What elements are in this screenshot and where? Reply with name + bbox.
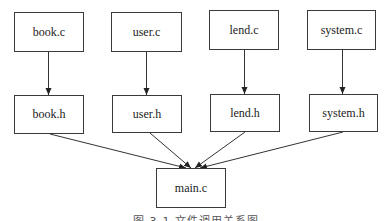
node-lend-h: lend.h	[210, 94, 280, 132]
figure-caption: 图 3-1 文件调用关系图	[0, 212, 392, 221]
node-system-c: system.c	[307, 10, 376, 50]
edge-book-h-to-main-c	[50, 134, 186, 168]
edge-user-h-to-main-c	[150, 133, 191, 168]
node-user-h: user.h	[112, 95, 182, 133]
node-main-c: main.c	[156, 168, 226, 208]
diagram-canvas: book.c user.c lend.c system.c book.h use…	[0, 0, 392, 221]
edge-system-h-to-main-c	[200, 132, 343, 168]
node-book-c: book.c	[14, 12, 84, 52]
node-user-c: user.c	[111, 12, 182, 52]
node-system-h: system.h	[309, 94, 378, 132]
node-lend-c: lend.c	[209, 10, 279, 50]
node-book-h: book.h	[14, 95, 84, 134]
